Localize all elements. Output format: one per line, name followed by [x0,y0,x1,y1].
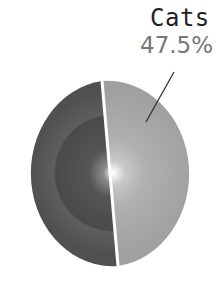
pie-chart [0,0,222,286]
